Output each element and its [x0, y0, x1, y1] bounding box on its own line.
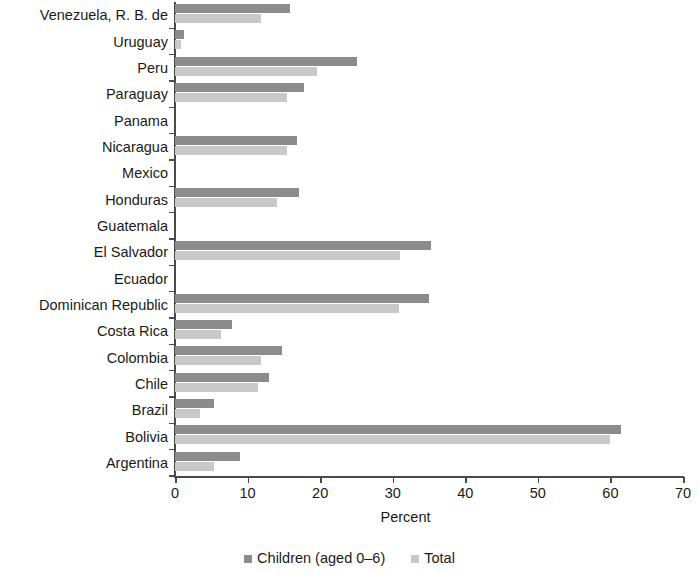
bar-children — [175, 241, 431, 250]
x-tick-label: 10 — [228, 486, 268, 501]
category-label: Colombia — [0, 351, 168, 366]
x-tick-label: 20 — [300, 486, 340, 501]
category-label: Nicaragua — [0, 140, 168, 155]
x-tick-label: 0 — [155, 486, 195, 501]
chart-row — [175, 397, 683, 423]
x-axis-line — [174, 476, 684, 478]
bar-children — [175, 30, 184, 39]
category-label: Bolivia — [0, 430, 168, 445]
chart-row — [175, 134, 683, 160]
x-axis-tick — [683, 477, 685, 483]
legend-item: Total — [411, 550, 455, 566]
x-axis-tick — [320, 477, 322, 483]
x-tick-label: 50 — [518, 486, 558, 501]
category-label: Argentina — [0, 456, 168, 471]
category-label: Paraguay — [0, 87, 168, 102]
legend-swatch-icon — [411, 555, 419, 563]
bar-total — [175, 356, 261, 365]
x-tick-label: 70 — [663, 486, 699, 501]
bar-total — [175, 40, 181, 49]
bar-total — [175, 409, 200, 418]
bar-children — [175, 57, 357, 66]
x-axis-tick — [538, 477, 540, 483]
legend-label: Total — [424, 550, 455, 566]
chart-row — [175, 186, 683, 212]
legend-swatch-icon — [244, 555, 252, 563]
x-axis-tick — [248, 477, 250, 483]
bar-children — [175, 136, 297, 145]
bar-children — [175, 83, 304, 92]
x-tick-label: 30 — [373, 486, 413, 501]
bar-children — [175, 373, 269, 382]
chart-row — [175, 450, 683, 476]
bar-total — [175, 198, 277, 207]
x-axis-title-label: Percent — [381, 509, 431, 525]
bar-total — [175, 146, 287, 155]
category-label: El Salvador — [0, 245, 168, 260]
category-label: Mexico — [0, 166, 168, 181]
bar-total — [175, 383, 258, 392]
category-label: Panama — [0, 114, 168, 129]
bar-total — [175, 251, 400, 260]
category-label: Ecuador — [0, 272, 168, 287]
x-tick-label: 60 — [590, 486, 630, 501]
category-label: Uruguay — [0, 35, 168, 50]
x-axis-title: Percent — [0, 509, 699, 525]
chart-row — [175, 55, 683, 81]
bar-children — [175, 399, 214, 408]
chart-row — [175, 107, 683, 133]
bar-children — [175, 320, 232, 329]
category-label: Peru — [0, 61, 168, 76]
x-tick-label: 40 — [445, 486, 485, 501]
plot-area — [175, 2, 683, 476]
bar-chart: Venezuela, R. B. deUruguayPeruParaguayPa… — [0, 0, 699, 575]
category-label: Dominican Republic — [0, 298, 168, 313]
category-label: Venezuela, R. B. de — [0, 8, 168, 23]
bar-children — [175, 452, 240, 461]
chart-row — [175, 160, 683, 186]
x-axis-tick — [610, 477, 612, 483]
chart-row — [175, 265, 683, 291]
bar-children — [175, 294, 429, 303]
chart-row — [175, 292, 683, 318]
x-axis-tick — [393, 477, 395, 483]
chart-row — [175, 423, 683, 449]
chart-row — [175, 239, 683, 265]
bar-total — [175, 304, 399, 313]
category-label: Chile — [0, 377, 168, 392]
bar-total — [175, 435, 610, 444]
category-label: Costa Rica — [0, 324, 168, 339]
bar-total — [175, 93, 287, 102]
chart-row — [175, 28, 683, 54]
bar-children — [175, 188, 299, 197]
bar-total — [175, 14, 261, 23]
bar-total — [175, 462, 214, 471]
legend-label: Children (aged 0–6) — [257, 550, 385, 566]
chart-row — [175, 371, 683, 397]
chart-row — [175, 81, 683, 107]
chart-legend: Children (aged 0–6)Total — [0, 550, 699, 566]
category-label: Guatemala — [0, 219, 168, 234]
bar-total — [175, 67, 317, 76]
bar-children — [175, 346, 282, 355]
bar-children — [175, 425, 621, 434]
x-axis-tick — [465, 477, 467, 483]
chart-row — [175, 213, 683, 239]
chart-row — [175, 344, 683, 370]
bar-children — [175, 4, 290, 13]
x-axis-tick — [175, 477, 177, 483]
category-label: Honduras — [0, 193, 168, 208]
category-label: Brazil — [0, 403, 168, 418]
legend-item: Children (aged 0–6) — [244, 550, 385, 566]
bar-total — [175, 330, 221, 339]
chart-row — [175, 318, 683, 344]
chart-row — [175, 2, 683, 28]
